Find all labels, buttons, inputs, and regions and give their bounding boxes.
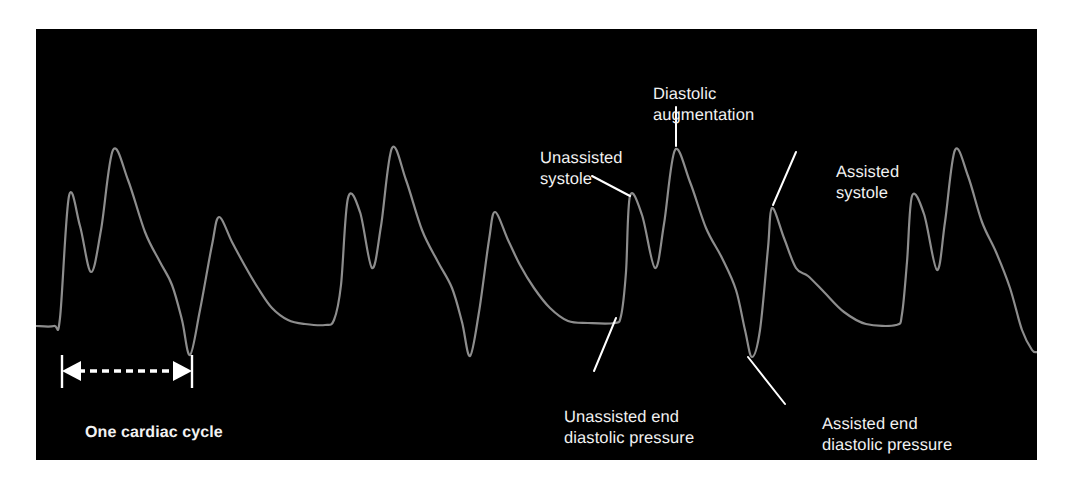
label-assisted-systole: Assisted systole bbox=[836, 162, 899, 204]
iabp-waveform-figure: Unassisted systole Diastolic augmentatio… bbox=[0, 0, 1068, 490]
leader-assisted-systole bbox=[773, 152, 796, 205]
leader-assisted-end-diastolic-pressure bbox=[748, 357, 785, 404]
cycle-arrow-left-icon bbox=[62, 361, 81, 381]
cycle-arrow-right-icon bbox=[173, 361, 192, 381]
waveform-plot bbox=[36, 29, 1037, 460]
cardiac-cycle-marker bbox=[62, 355, 192, 388]
label-unassisted-systole: Unassisted systole bbox=[540, 148, 623, 190]
label-assisted-end-diastolic-pressure: Assisted end diastolic pressure bbox=[822, 414, 952, 456]
label-one-cardiac-cycle: One cardiac cycle bbox=[85, 423, 223, 443]
waveform-panel: Unassisted systole Diastolic augmentatio… bbox=[36, 29, 1037, 460]
label-diastolic-augmentation: Diastolic augmentation bbox=[653, 84, 754, 126]
leader-unassisted-end-diastolic-pressure bbox=[594, 318, 616, 371]
label-unassisted-end-diastolic-pressure: Unassisted end diastolic pressure bbox=[564, 407, 694, 449]
